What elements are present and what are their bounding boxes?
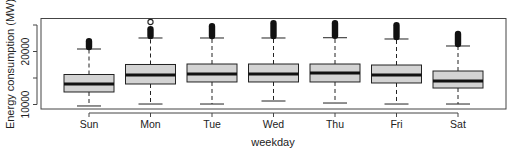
x-axis-label: weekday (250, 136, 295, 148)
outlier-points (455, 31, 461, 47)
x-axis: SunMonTueWedThuFriSat (80, 113, 466, 130)
box-series (64, 19, 483, 106)
outlier-point-open (148, 19, 153, 24)
box-tue (187, 23, 237, 104)
x-tick-label: Thu (326, 118, 344, 130)
x-tick-label: Wed (263, 118, 285, 130)
x-tick-label: Fri (390, 118, 402, 130)
outlier-points (86, 38, 92, 50)
box-sun (64, 38, 114, 106)
box-thu (310, 20, 360, 103)
y-axis: 1000020000 (20, 25, 37, 118)
box-wed (249, 20, 299, 101)
outlier-points (270, 20, 276, 39)
x-tick-label: Tue (203, 118, 221, 130)
x-tick-label: Mon (140, 118, 161, 130)
iqr-box (433, 71, 483, 88)
box-fri (372, 22, 422, 104)
outlier-points (332, 20, 338, 39)
y-tick-label: 20000 (20, 37, 31, 65)
box-sat (433, 31, 483, 104)
boxplot-chart: 1000020000 SunMonTueWedThuFriSat Energy … (0, 0, 515, 155)
box-mon (126, 19, 176, 104)
outlier-points (393, 22, 399, 40)
y-tick-label: 10000 (20, 90, 31, 118)
chart-canvas: 1000020000 SunMonTueWedThuFriSat Energy … (0, 0, 515, 155)
y-axis-label: Energy consumption (MW) (4, 0, 16, 129)
x-tick-label: Sat (450, 118, 466, 130)
outlier-points (147, 26, 153, 39)
x-tick-label: Sun (80, 118, 99, 130)
outlier-points (209, 23, 215, 39)
